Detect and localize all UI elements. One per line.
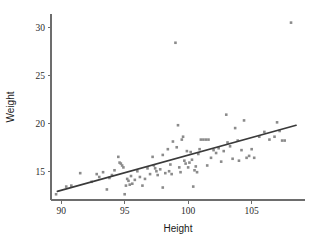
data-point	[102, 171, 105, 174]
data-point	[283, 139, 286, 142]
data-point	[238, 159, 241, 162]
data-point	[187, 166, 190, 169]
data-point	[174, 41, 177, 44]
data-point	[186, 150, 189, 153]
data-point	[273, 135, 276, 138]
data-point	[55, 193, 58, 196]
data-point	[194, 165, 197, 168]
data-point	[202, 138, 205, 141]
data-point	[149, 173, 152, 176]
x-tick-label: 95	[120, 206, 130, 216]
data-point	[130, 175, 133, 178]
data-point	[122, 166, 125, 169]
data-point	[175, 146, 178, 149]
data-point	[106, 188, 109, 191]
data-point	[125, 184, 128, 187]
data-point	[123, 193, 126, 196]
data-point	[179, 171, 182, 174]
data-point	[212, 149, 215, 152]
data-point	[127, 180, 130, 183]
x-tick-label: 90	[56, 206, 66, 216]
data-point	[155, 170, 158, 173]
data-point	[95, 173, 98, 176]
data-point	[196, 171, 199, 174]
data-point	[183, 159, 186, 162]
data-point	[192, 185, 195, 188]
data-point	[207, 138, 210, 141]
data-point	[205, 138, 208, 141]
data-point	[181, 138, 184, 141]
data-point	[231, 157, 234, 160]
regression-line	[57, 125, 296, 191]
data-point	[222, 150, 225, 153]
data-point	[182, 135, 185, 138]
data-point	[240, 149, 243, 152]
data-point	[177, 124, 180, 127]
y-tick-label: 25	[36, 71, 46, 81]
data-point	[170, 173, 173, 176]
data-point	[139, 176, 142, 179]
data-point	[243, 119, 246, 122]
data-point	[141, 184, 144, 187]
x-tick-label: 100	[181, 206, 196, 216]
data-point	[79, 172, 82, 175]
data-point	[276, 121, 279, 124]
data-point	[225, 113, 228, 116]
data-point	[131, 182, 134, 185]
data-point	[250, 148, 253, 151]
data-point	[134, 179, 137, 182]
data-point	[198, 148, 201, 151]
data-point	[248, 155, 251, 158]
data-point	[128, 183, 131, 186]
data-point	[144, 178, 147, 181]
data-point	[159, 168, 162, 171]
data-point	[263, 131, 266, 134]
y-tick-label: 15	[36, 167, 46, 177]
data-point	[188, 161, 191, 164]
data-point	[253, 157, 256, 160]
data-point	[167, 148, 170, 151]
data-point	[290, 21, 293, 24]
scatter-plot-figure: 152025309095100105HeightWeight	[0, 0, 318, 244]
data-point	[210, 157, 213, 160]
data-point	[151, 156, 154, 159]
data-point	[169, 163, 172, 166]
x-axis-title: Height	[164, 223, 193, 234]
y-tick-label: 20	[36, 119, 46, 129]
data-point	[164, 172, 167, 175]
data-point	[156, 174, 159, 177]
data-point	[193, 169, 196, 172]
x-tick-label: 105	[245, 206, 260, 216]
data-point	[161, 154, 164, 157]
data-point	[178, 166, 181, 169]
data-point	[154, 167, 157, 170]
y-tick-label: 30	[36, 23, 46, 33]
data-point	[200, 138, 203, 141]
data-point	[117, 156, 120, 159]
data-point	[113, 169, 116, 172]
data-point	[234, 127, 237, 130]
y-axis-title: Weight	[5, 91, 16, 122]
data-point	[161, 186, 164, 189]
data-point	[189, 151, 192, 154]
plot-canvas: 152025309095100105HeightWeight	[0, 0, 318, 244]
data-point	[215, 152, 218, 155]
data-point	[220, 160, 223, 163]
data-point	[65, 185, 68, 188]
data-point	[172, 140, 175, 143]
data-point	[136, 170, 139, 173]
data-point	[191, 158, 194, 161]
data-point	[184, 162, 187, 165]
data-point	[281, 139, 284, 142]
data-point	[229, 145, 232, 148]
data-point	[206, 164, 209, 167]
data-point	[245, 157, 248, 160]
data-point	[168, 170, 171, 173]
data-point	[98, 176, 101, 179]
data-point	[268, 138, 271, 141]
